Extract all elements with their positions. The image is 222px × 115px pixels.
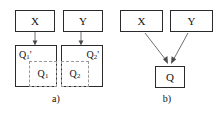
- q2-prime-base: Q: [87, 49, 94, 60]
- q2-prime-mark: ': [97, 49, 99, 60]
- node-b-x: X: [120, 10, 163, 32]
- figure-diagram: X Y Q1' Q1 Q2' Q2 a): [0, 0, 222, 115]
- node-b-y: Y: [170, 10, 213, 32]
- q1-subscript: 1: [45, 72, 49, 79]
- node-a-q1-inner-label: Q1: [37, 69, 48, 79]
- q1-base: Q: [37, 68, 44, 79]
- node-a-y: Y: [63, 10, 103, 32]
- edge-a-y-to-q2: [76, 32, 86, 46]
- q2-base: Q: [69, 68, 76, 79]
- node-a-x-label: X: [31, 16, 39, 27]
- q1-prime-mark: ': [30, 49, 32, 60]
- node-a-y-label: Y: [79, 16, 87, 27]
- node-a-q2-prime: Q2' Q2: [61, 45, 103, 87]
- node-a-q2-inner-label: Q2: [69, 69, 80, 79]
- node-a-q1-inner: Q1: [29, 61, 57, 87]
- panel-a: X Y Q1' Q1 Q2' Q2 a): [0, 0, 112, 115]
- node-a-q2-prime-label: Q2': [87, 50, 99, 60]
- node-a-q1-prime: Q1' Q1: [15, 45, 57, 87]
- caption-a: a): [0, 94, 112, 104]
- node-a-q2-inner: Q2: [61, 61, 89, 87]
- edge-a-x-to-q1: [30, 32, 40, 46]
- node-a-q1-prime-label: Q1': [19, 50, 31, 60]
- node-b-y-label: Y: [187, 16, 195, 27]
- q2-subscript: 2: [77, 72, 81, 79]
- caption-b: b): [112, 94, 222, 104]
- node-b-q-label: Q: [166, 72, 174, 83]
- node-a-x: X: [15, 10, 55, 32]
- node-b-q: Q: [155, 66, 185, 88]
- panel-b: X Y Q b): [112, 0, 222, 115]
- node-b-x-label: X: [137, 16, 145, 27]
